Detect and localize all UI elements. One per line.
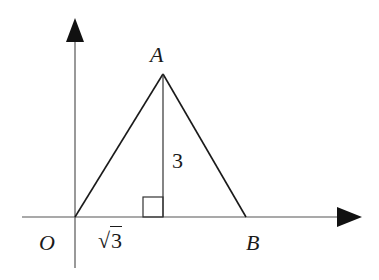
diagram-canvas: [0, 0, 379, 280]
label-O: O: [39, 232, 55, 254]
side-OA: [75, 74, 163, 217]
label-height-3: 3: [172, 150, 183, 172]
triangle-diagram: A 3 O √3 B: [0, 0, 379, 280]
y-axis-arrow-icon: [66, 18, 84, 42]
x-axis-arrow-icon: [337, 207, 362, 227]
side-AB: [163, 74, 246, 217]
label-sqrt3: √3: [98, 230, 122, 252]
right-angle-marker: [143, 197, 163, 217]
label-A: A: [150, 44, 163, 66]
label-B: B: [246, 232, 259, 254]
sqrt-radicand: 3: [110, 226, 122, 253]
sqrt-symbol: √: [98, 228, 110, 253]
